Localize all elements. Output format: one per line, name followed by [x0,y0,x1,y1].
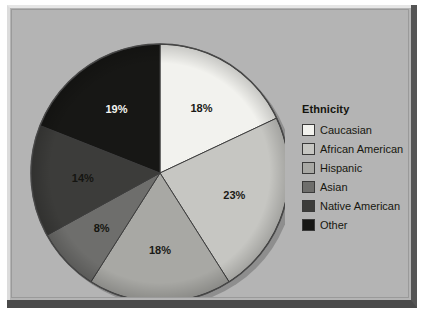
legend-item-label: Caucasian [320,124,372,136]
legend-item-label: Asian [320,181,348,193]
legend-items: CaucasianAfrican AmericanHispanicAsianNa… [302,120,414,234]
legend-item: Asian [302,177,414,196]
legend-swatch-icon [302,143,315,155]
legend-swatch-icon [302,219,315,231]
legend: Ethnicity CaucasianAfrican AmericanHispa… [302,103,414,234]
pie-slice-label: 18% [149,244,171,256]
legend-swatch-icon [302,162,315,174]
legend-swatch-icon [302,124,315,136]
legend-item: Hispanic [302,158,414,177]
legend-item-label: Other [320,219,348,231]
legend-item: Other [302,215,414,234]
pie-slice-label: 19% [105,103,127,115]
scanned-page: 18%23%18%8%14%19% Ethnicity CaucasianAfr… [0,0,427,328]
pie-slice-label: 14% [72,172,94,184]
legend-item-label: Native American [320,200,400,212]
legend-swatch-icon [302,181,315,193]
legend-item-label: Hispanic [320,162,362,174]
legend-swatch-icon [302,200,315,212]
pie-slice-label: 18% [190,102,212,114]
figure-panel: 18%23%18%8%14%19% Ethnicity CaucasianAfr… [7,5,417,308]
legend-title: Ethnicity [302,103,414,115]
pie-slice-label: 23% [223,189,245,201]
legend-item-label: African American [320,143,403,155]
legend-item: African American [302,139,414,158]
pie-chart-svg: 18%23%18%8%14%19% [17,25,285,297]
pie-shading [31,44,285,297]
pie-chart: 18%23%18%8%14%19% [17,25,285,297]
legend-item: Native American [302,196,414,215]
legend-item: Caucasian [302,120,414,139]
pie-slice-label: 8% [94,222,110,234]
